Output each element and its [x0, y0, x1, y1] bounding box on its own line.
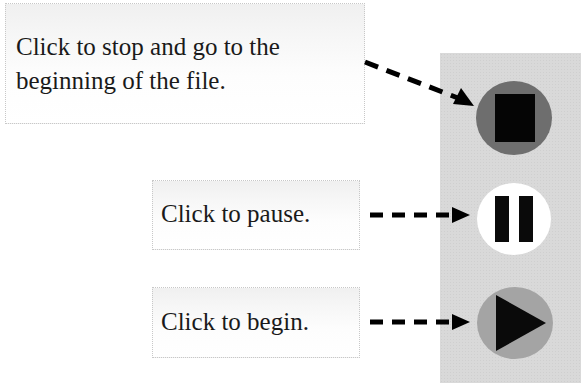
stop-button[interactable]: [476, 81, 552, 155]
begin-callout-text: Click to begin.: [161, 305, 359, 339]
play-icon: [496, 295, 546, 351]
stop-icon: [495, 94, 535, 142]
pause-callout-text: Click to pause.: [161, 197, 359, 231]
begin-callout: Click to begin.: [152, 287, 360, 358]
pause-button[interactable]: [477, 183, 551, 255]
stop-callout-line2: beginning of the file.: [16, 64, 364, 98]
play-button[interactable]: [477, 287, 553, 359]
stop-callout-line1: Click to stop and go to the: [16, 30, 364, 64]
pause-icon: [490, 196, 538, 242]
pause-callout: Click to pause.: [152, 180, 360, 250]
stop-callout: Click to stop and go to the beginning of…: [5, 3, 365, 124]
